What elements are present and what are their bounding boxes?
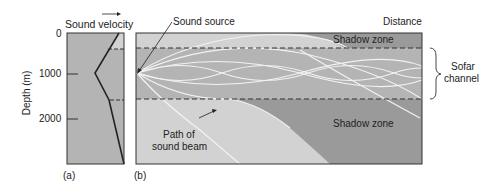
y-tick-2000: 2000 bbox=[39, 114, 61, 124]
y-tick-0: 0 bbox=[56, 29, 62, 39]
sofar-label-line2: channel bbox=[444, 74, 479, 84]
distance-axis-title: Distance bbox=[383, 17, 422, 27]
velocity-axis-title: Sound velocity bbox=[65, 19, 133, 30]
sofar-brace bbox=[430, 48, 441, 99]
velocity-profile-panel bbox=[67, 12, 124, 164]
shadow-zone-bottom-label: Shadow zone bbox=[333, 119, 394, 129]
y-axis-label: Depth (m) bbox=[22, 65, 32, 121]
y-tick-1000: 1000 bbox=[39, 69, 61, 79]
sound-source-label: Sound source bbox=[173, 17, 235, 27]
sofar-label-line1: Sofar bbox=[451, 62, 475, 72]
panel-a-label: (a) bbox=[63, 171, 75, 181]
path-label-line1: Path of bbox=[163, 130, 195, 140]
shadow-zone-top-label: Shadow zone bbox=[333, 35, 394, 45]
panel-b-label: (b) bbox=[134, 171, 146, 181]
path-label-line2: sound beam bbox=[152, 142, 207, 152]
